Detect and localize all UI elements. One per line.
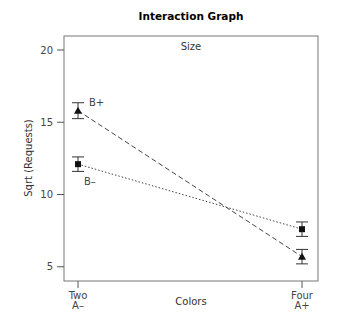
series-label-b-plus: B+ xyxy=(89,97,104,108)
series-label-b-minus: B– xyxy=(84,176,96,187)
x-tick-label: A+ xyxy=(294,300,309,311)
chart-title: Interaction Graph xyxy=(139,10,244,22)
legend-title: Size xyxy=(181,41,202,52)
series-line-0 xyxy=(78,111,302,257)
triangle-marker xyxy=(298,253,306,260)
x-tick-label: A– xyxy=(72,300,84,311)
square-marker xyxy=(75,161,81,167)
x-axis-label: Colors xyxy=(175,296,206,307)
square-marker xyxy=(299,226,305,232)
y-tick-label: 20 xyxy=(40,45,53,56)
series-line-1 xyxy=(78,164,302,229)
y-axis-label: Sqrt (Requests) xyxy=(23,119,34,197)
plot-frame xyxy=(64,36,318,281)
triangle-marker xyxy=(74,107,82,114)
y-tick-label: 15 xyxy=(40,117,53,128)
y-tick-label: 5 xyxy=(47,261,53,272)
y-tick-label: 10 xyxy=(40,189,53,200)
interaction-chart: Interaction GraphSize5101520Sqrt (Reques… xyxy=(0,0,337,327)
